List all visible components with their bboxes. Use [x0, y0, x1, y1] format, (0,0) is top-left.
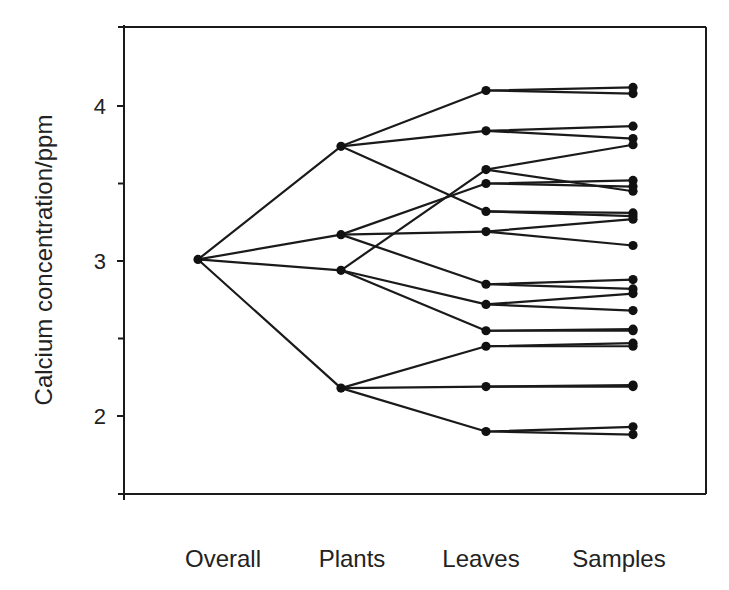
data-point-plants [336, 142, 345, 151]
y-tick-label: 2 [94, 404, 106, 429]
data-point-samples [628, 289, 637, 298]
edge-line [486, 145, 633, 170]
edge-line [341, 232, 486, 235]
edge-line [198, 235, 341, 260]
edges [198, 87, 633, 434]
data-point-samples [628, 140, 637, 149]
edge-line [486, 126, 633, 131]
data-point-leaves [481, 300, 490, 309]
data-point-samples [628, 326, 637, 335]
edge-line [486, 232, 633, 246]
edge-line [198, 146, 341, 259]
edge-line [341, 170, 486, 271]
data-point-samples [628, 215, 637, 224]
x-label-overall: Overall [185, 545, 261, 572]
data-point-leaves [481, 227, 490, 236]
data-point-samples [628, 342, 637, 351]
edge-line [486, 131, 633, 139]
data-point-plants [336, 384, 345, 393]
data-point-samples [628, 122, 637, 131]
data-point-plants [336, 266, 345, 275]
data-point-leaves [481, 280, 490, 289]
edge-line [486, 184, 633, 187]
y-tick-label: 3 [94, 249, 106, 274]
data-point-leaves [481, 179, 490, 188]
data-point-leaves [481, 165, 490, 174]
x-label-plants: Plants [319, 545, 386, 572]
edge-line [486, 280, 633, 285]
data-point-samples [628, 182, 637, 191]
edge-line [341, 235, 486, 285]
data-point-leaves [481, 86, 490, 95]
edge-line [341, 270, 486, 304]
edge-line [486, 427, 633, 432]
data-point-samples [628, 306, 637, 315]
plot-frame [118, 25, 706, 500]
data-point-leaves [481, 326, 490, 335]
data-point-samples [628, 275, 637, 284]
edge-line [486, 219, 633, 231]
edge-line [486, 432, 633, 435]
edge-line [486, 294, 633, 305]
edge-line [198, 259, 341, 388]
edge-line [486, 91, 633, 94]
data-point-samples [628, 430, 637, 439]
data-point-overall [193, 255, 202, 264]
edge-line [341, 146, 486, 211]
edge-line [198, 259, 341, 270]
x-label-leaves: Leaves [442, 545, 519, 572]
data-point-leaves [481, 126, 490, 135]
edge-line [341, 387, 486, 389]
edge-line [341, 270, 486, 330]
edge-line [486, 304, 633, 310]
edge-line [341, 346, 486, 388]
edge-line [341, 388, 486, 431]
data-point-samples [628, 89, 637, 98]
y-axis-title: Calcium concentration/ppm [30, 115, 57, 406]
hierarchy-chart: 234 OverallPlantsLeavesSamples Calcium c… [0, 0, 729, 590]
data-point-leaves [481, 342, 490, 351]
data-point-samples [628, 241, 637, 250]
x-label-samples: Samples [572, 545, 665, 572]
data-point-leaves [481, 382, 490, 391]
data-point-plants [336, 230, 345, 239]
edge-line [341, 184, 486, 235]
x-category-labels: OverallPlantsLeavesSamples [185, 545, 666, 572]
data-point-samples [628, 382, 637, 391]
edge-line [486, 284, 633, 289]
data-point-leaves [481, 427, 490, 436]
data-point-leaves [481, 207, 490, 216]
y-axis-ticks: 234 [94, 94, 124, 429]
y-tick-label: 4 [94, 94, 106, 119]
